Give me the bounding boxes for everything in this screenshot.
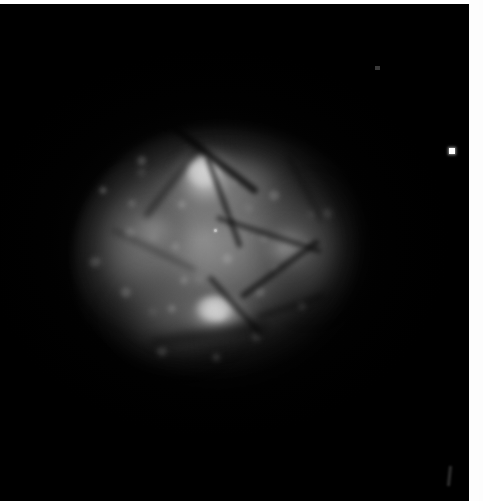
dust-lane-3 <box>216 215 322 254</box>
faint-speck-icon <box>375 66 380 70</box>
bright-knot-primary-core <box>186 156 220 186</box>
bright-knot-right <box>252 216 324 280</box>
faint-streak-artifact <box>447 466 452 486</box>
nebula-halo <box>34 85 405 423</box>
dust-lane-10 <box>150 322 270 348</box>
sky-field[interactable] <box>0 4 469 501</box>
nebula-left-lobe <box>62 169 192 334</box>
right-margin <box>469 0 483 501</box>
dust-lane-9 <box>286 154 324 221</box>
dust-lane-7 <box>257 293 325 319</box>
bright-knot-primary <box>168 144 246 218</box>
core-point-source[interactable] <box>214 229 217 232</box>
nebula-lower-left-lobe <box>96 272 246 387</box>
dust-lane-1 <box>161 116 260 195</box>
astronomical-figure: Grayscale astronomical image: a bright, … <box>0 0 483 501</box>
dust-lane-5 <box>143 146 201 218</box>
dust-lane-8 <box>112 228 196 272</box>
bright-knot-left <box>118 200 188 262</box>
nebula-clump-texture-secondary <box>17 66 423 442</box>
nebula-right-lobe <box>262 176 377 326</box>
bright-knot-secondary <box>175 280 266 345</box>
dust-lane-6 <box>207 275 264 338</box>
top-margin <box>0 0 483 4</box>
isolated-star-point-source[interactable] <box>449 148 455 154</box>
nebula-main-body <box>51 100 386 403</box>
dust-lane-4 <box>239 238 320 299</box>
nebula-clump-texture <box>34 85 405 423</box>
nebula-upper-ridge <box>132 115 323 244</box>
dust-lane-2 <box>205 157 243 249</box>
bright-knot-secondary-core <box>196 296 232 320</box>
